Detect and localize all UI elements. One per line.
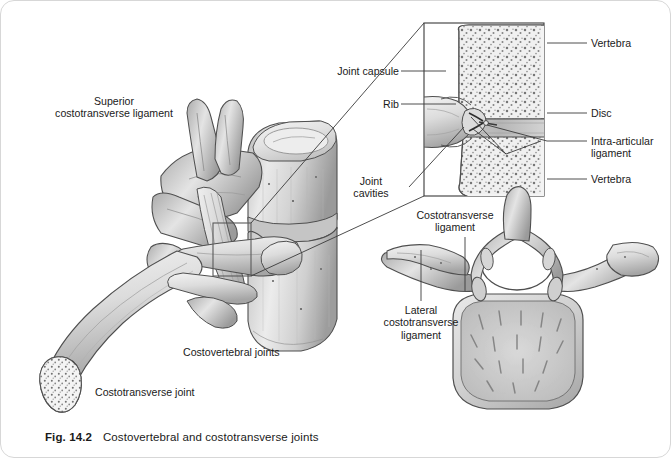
main-lateral-view — [35, 99, 337, 417]
label-joint-cavities: Joint cavities — [341, 175, 401, 200]
inset-detail — [401, 23, 587, 198]
label-joint-capsule: Joint capsule — [259, 65, 399, 77]
label-line: Costotransverse — [395, 209, 515, 221]
figure-caption: Fig. 14.2Costovertebral and costotransve… — [45, 431, 319, 443]
label-line: Superior — [29, 95, 199, 107]
label-disc: Disc — [591, 107, 612, 119]
label-lateral-costotransverse-ligament: Lateral costotransverse ligament — [356, 304, 486, 341]
label-line: costotransverse — [356, 316, 486, 328]
label-vertebra-upper: Vertebra — [591, 37, 631, 49]
label-line: cavities — [341, 187, 401, 199]
label-costotransverse-joint: Costotransverse joint — [95, 386, 195, 398]
label-costovertebral-joints: Costovertebral joints — [183, 346, 280, 358]
label-line: ligament — [356, 329, 486, 341]
label-intra-articular-ligament: Intra-articular ligament — [591, 135, 653, 160]
spinous-process — [215, 100, 243, 175]
label-line: Lateral — [356, 304, 486, 316]
axial-right-rib — [607, 242, 659, 276]
label-superior-costotransverse-ligament: Superior costotransverse ligament — [29, 95, 199, 120]
figure-card: Superior costotransverse ligament Costov… — [0, 0, 671, 458]
label-vertebra-lower: Vertebra — [591, 173, 631, 185]
figure-caption-text: Costovertebral and costotransverse joint… — [103, 431, 319, 443]
figure-number: Fig. 14.2 — [45, 431, 92, 443]
label-line: Joint — [341, 175, 401, 187]
label-line: ligament — [591, 147, 653, 159]
label-rib: Rib — [299, 98, 399, 110]
label-costotransverse-ligament: Costotransverse ligament — [395, 209, 515, 234]
label-line: ligament — [395, 221, 515, 233]
label-line: Intra-articular — [591, 135, 653, 147]
label-line: costotransverse ligament — [29, 107, 199, 119]
